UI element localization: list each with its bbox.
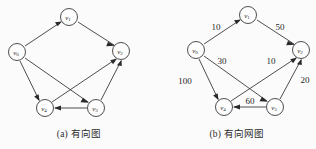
weight-v4-v2: 10 — [267, 56, 277, 66]
edge-v4-v2 — [231, 58, 296, 101]
arrowhead-v3-v4 — [54, 106, 61, 111]
caption-panel-a: (a) 有向图 — [0, 126, 158, 140]
arrowhead-v4-v2 — [110, 58, 117, 64]
caption-panel-b: (b) 有向网图 — [158, 126, 316, 140]
node-v1[interactable]: v1 — [61, 9, 78, 26]
edge-v0-v1 — [25, 22, 61, 46]
weight-v0-v4: 100 — [178, 76, 192, 86]
arrowhead-v3-v4 — [233, 105, 240, 110]
edge-v0-v3 — [204, 56, 267, 101]
arrowhead-v4-v2 — [290, 57, 297, 63]
edge-v0-v3 — [25, 58, 88, 102]
node-v3[interactable]: v3 — [88, 100, 105, 117]
edge-v0-v4 — [20, 61, 39, 100]
edge-v1-v2 — [78, 22, 114, 45]
edge-v3-v2 — [280, 60, 301, 99]
node-v4[interactable]: v4 — [37, 100, 54, 117]
arrowhead-v3-v2 — [117, 60, 122, 66]
arrowhead-v3-v2 — [297, 59, 302, 65]
graph-a-canvas: v0 v1 v2 v3 — [0, 0, 158, 126]
weight-v3-v2: 20 — [301, 75, 311, 85]
arrowhead-v0-v3 — [260, 97, 269, 102]
panel-directed-graph: v0 v1 v2 v3 — [0, 0, 158, 149]
arrowhead-v0-v4 — [34, 94, 39, 101]
node-v2[interactable]: v2 — [293, 42, 310, 59]
weight-v3-v4: 60 — [246, 96, 256, 106]
weight-v0-v3: 30 — [218, 56, 228, 66]
weight-v1-v2: 50 — [276, 22, 286, 32]
node-v3[interactable]: v3 — [267, 99, 284, 116]
weight-v0-v1: 10 — [212, 22, 222, 32]
node-v2[interactable]: v2 — [113, 43, 130, 60]
node-v0[interactable]: v0 — [188, 42, 205, 59]
panel-directed-network-graph: 10 50 30 100 10 20 60 v0 — [158, 0, 316, 149]
edge-v0-v1 — [204, 20, 240, 44]
graph-b-canvas: 10 50 30 100 10 20 60 v0 — [158, 0, 316, 126]
arrowhead-v0-v4 — [213, 93, 218, 100]
graph-b-weights: 10 50 30 100 10 20 60 — [178, 22, 310, 106]
node-v1[interactable]: v1 — [240, 7, 257, 24]
edge-v0-v4 — [199, 59, 218, 99]
arrowhead-v0-v3 — [81, 98, 90, 103]
figure-directed-graphs: v0 v1 v2 v3 — [0, 0, 316, 149]
graph-a-edges — [20, 22, 122, 111]
edge-v4-v2 — [52, 59, 116, 102]
node-v4[interactable]: v4 — [216, 99, 233, 116]
node-v0[interactable]: v0 — [9, 44, 26, 61]
